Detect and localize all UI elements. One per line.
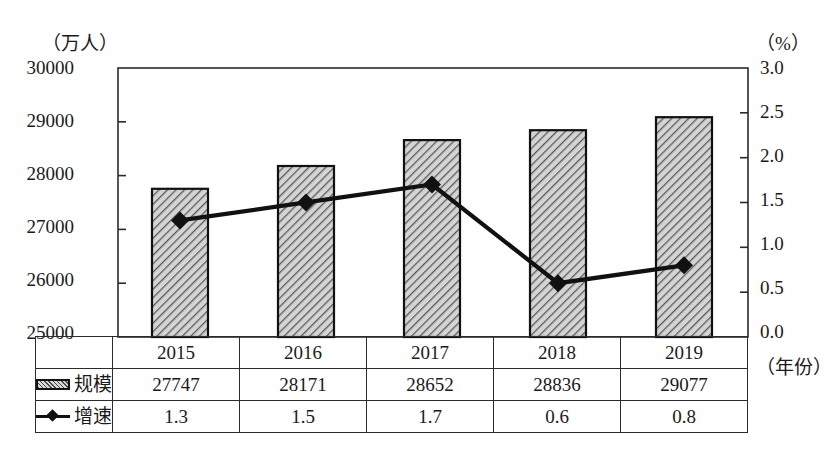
legend-line-label: 增速 <box>74 401 112 432</box>
line-value-2018: 0.6 <box>494 401 621 433</box>
left-axis-ticks <box>118 122 126 283</box>
table-row-zengsu: 增速 1.3 1.5 1.7 0.6 0.8 <box>36 401 748 433</box>
right-axis-ticks <box>740 113 748 292</box>
bar-2017 <box>404 140 460 337</box>
legend-line-cell[interactable]: 增速 <box>36 401 113 433</box>
bar-value-2017: 28652 <box>367 369 494 401</box>
year-cell-2015: 2015 <box>113 337 240 369</box>
year-row-legend-spacer <box>36 337 113 369</box>
hatched-rect-icon <box>36 379 70 390</box>
chart-figure: （万人） （%） （年份） 30000 29000 28000 27000 26… <box>0 0 840 456</box>
bar-2018 <box>530 130 586 337</box>
line-value-2015: 1.3 <box>113 401 240 433</box>
bar-value-2018: 28836 <box>494 369 621 401</box>
bar-value-2019: 29077 <box>621 369 748 401</box>
line-value-2016: 1.5 <box>240 401 367 433</box>
table-row-guimo: 规模 27747 28171 28652 28836 29077 <box>36 369 748 401</box>
legend-bar-cell[interactable]: 规模 <box>36 369 113 401</box>
line-diamond-icon <box>36 411 70 422</box>
year-cell-2016: 2016 <box>240 337 367 369</box>
year-cell-2017: 2017 <box>367 337 494 369</box>
year-cell-2018: 2018 <box>494 337 621 369</box>
legend-bar-label: 规模 <box>74 369 112 400</box>
bar-value-2015: 27747 <box>113 369 240 401</box>
line-value-2017: 1.7 <box>367 401 494 433</box>
data-table: 2015 2016 2017 2018 2019 规模 27747 28171 <box>35 336 748 433</box>
bar-series-guimo <box>152 117 712 337</box>
bar-2016 <box>278 166 334 337</box>
bar-2019 <box>656 117 712 337</box>
data-table-wrapper: 2015 2016 2017 2018 2019 规模 27747 28171 <box>35 336 748 434</box>
bar-2015 <box>152 189 208 337</box>
bar-value-2016: 28171 <box>240 369 367 401</box>
line-value-2019: 0.8 <box>621 401 748 433</box>
year-cell-2019: 2019 <box>621 337 748 369</box>
table-row-years: 2015 2016 2017 2018 2019 <box>36 337 748 369</box>
